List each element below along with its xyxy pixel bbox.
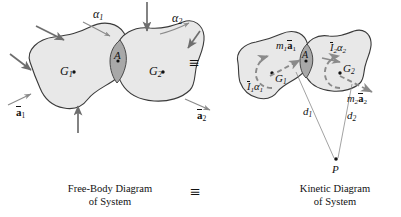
- fbd-caption: Free-Body Diagram of System: [46, 183, 174, 209]
- kd-g2-label: G2: [343, 63, 355, 76]
- kd-moment-2-label: I2α2: [330, 43, 346, 55]
- fbd-caption-line2: of System: [46, 196, 174, 209]
- kd-caption-line1: Kinetic Diagram: [300, 183, 370, 194]
- caption-equivalence-symbol: ≡: [190, 183, 200, 201]
- fbd-caption-line1: Free-Body Diagram: [68, 183, 152, 194]
- kd-g2-dot: [338, 71, 341, 74]
- mechanics-figure: G1 G2 A α1 α2 a1 a2 ≡ G1 G2 A I1α1 I2α2 …: [0, 0, 401, 217]
- fbd-g1-dot: [72, 70, 75, 73]
- kd-force-2-label: m2a2: [347, 94, 367, 106]
- kd-point-p-dot: [334, 157, 338, 161]
- fbd-alpha-2-label: α2: [172, 12, 182, 26]
- fbd-g2-label: G2: [149, 65, 162, 79]
- fbd-accel-2-label: a2: [197, 110, 206, 122]
- center-equivalence-symbol: ≡: [189, 54, 199, 72]
- kd-force-1-label: m1a1: [276, 41, 296, 53]
- fbd-accel-1-label: a1: [16, 107, 25, 119]
- kd-moment-1-label: I1α1: [247, 82, 263, 94]
- kd-caption: Kinetic Diagram of System: [276, 183, 394, 209]
- kd-point-p-label: P: [332, 164, 339, 175]
- kd-distance-1-label: d1: [303, 106, 312, 119]
- kd-contact-point-a-label: A: [302, 50, 308, 60]
- fbd-contact-point-a-label: A: [114, 50, 121, 61]
- kd-caption-line2: of System: [276, 196, 394, 209]
- kd-g1-label: G1: [275, 73, 287, 86]
- kd-distance-2-label: d2: [347, 110, 356, 123]
- fbd-g2-dot: [161, 70, 164, 73]
- fbd-g1-label: G1: [60, 65, 73, 79]
- fbd-alpha-1-label: α1: [93, 8, 103, 22]
